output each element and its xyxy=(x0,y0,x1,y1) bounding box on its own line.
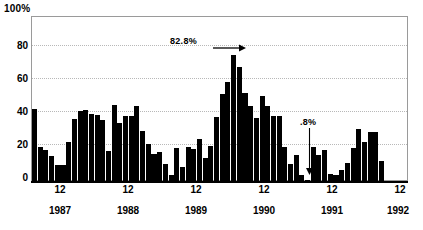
bar xyxy=(151,154,156,181)
x-year-1990: 1990 xyxy=(253,205,275,216)
bar xyxy=(339,170,344,181)
bar xyxy=(38,147,43,181)
bar xyxy=(322,150,327,181)
annotation-peak-label: 82.8% xyxy=(170,36,197,46)
bar xyxy=(163,164,168,181)
x-tick-1991: 12 xyxy=(326,184,337,195)
bar-chart: 100% 80 60 40 20 0 12 12 12 12 12 12 198… xyxy=(0,0,423,230)
bar xyxy=(112,105,117,181)
x-year-1992: 1992 xyxy=(387,205,409,216)
x-axis-baseline xyxy=(31,181,408,183)
bar xyxy=(123,116,128,181)
bar xyxy=(316,155,321,181)
bar xyxy=(248,106,253,181)
x-year-1988: 1988 xyxy=(117,205,139,216)
bar xyxy=(146,144,151,181)
x-tick-1990: 12 xyxy=(258,184,269,195)
x-tick-1992: 12 xyxy=(394,184,405,195)
bar xyxy=(89,114,94,181)
bar xyxy=(49,156,54,181)
bar xyxy=(83,110,88,181)
bar xyxy=(237,67,242,181)
y-tick-label-40: 40 xyxy=(2,106,28,117)
y-tick-label-80: 80 xyxy=(2,40,28,51)
bar xyxy=(231,55,236,181)
bar xyxy=(134,106,139,181)
bar xyxy=(362,142,367,181)
bar xyxy=(100,120,105,182)
x-year-1991: 1991 xyxy=(321,205,343,216)
right-arrow-icon xyxy=(213,44,246,52)
y-tick-label-20: 20 xyxy=(2,139,28,150)
y-tick-label-0: 0 xyxy=(2,172,28,183)
bar xyxy=(379,161,384,181)
bar xyxy=(328,174,333,181)
bar xyxy=(282,147,287,181)
bar xyxy=(345,163,350,181)
bar xyxy=(66,142,71,181)
bar xyxy=(351,148,356,181)
x-tick-1989: 12 xyxy=(190,184,201,195)
bar xyxy=(265,106,270,181)
bar xyxy=(43,150,48,181)
x-year-1989: 1989 xyxy=(185,205,207,216)
x-tick-1987: 12 xyxy=(54,184,65,195)
bar xyxy=(254,118,259,181)
down-arrow-icon xyxy=(305,128,314,175)
bar-series xyxy=(32,17,407,181)
bar xyxy=(220,94,225,181)
x-year-1987: 1987 xyxy=(49,205,71,216)
bar xyxy=(129,116,134,181)
bar xyxy=(55,165,60,181)
bar xyxy=(208,146,213,181)
y-tick-label-60: 60 xyxy=(2,73,28,84)
bar xyxy=(186,147,191,181)
bar xyxy=(203,158,208,181)
bar xyxy=(294,155,299,181)
bar xyxy=(191,149,196,181)
annotation-trough-label: .8% xyxy=(300,117,316,127)
bar xyxy=(95,115,100,181)
bar xyxy=(356,129,361,181)
bar xyxy=(117,123,122,181)
x-tick-1988: 12 xyxy=(122,184,133,195)
bar xyxy=(180,167,185,181)
bar xyxy=(197,139,202,181)
bar xyxy=(368,132,373,181)
bar xyxy=(140,131,145,181)
bar xyxy=(242,93,247,181)
bar xyxy=(174,148,179,181)
bar xyxy=(260,96,265,181)
bar xyxy=(157,152,162,181)
bar xyxy=(214,117,219,181)
bar xyxy=(32,109,37,181)
bar xyxy=(373,132,378,181)
bar xyxy=(72,119,77,181)
bar xyxy=(271,116,276,181)
bar xyxy=(60,165,65,181)
bar xyxy=(225,82,230,181)
bar xyxy=(277,116,282,181)
bar xyxy=(288,164,293,181)
y-axis-top-label: 100% xyxy=(4,3,30,14)
bar xyxy=(78,111,83,181)
bar xyxy=(106,151,111,181)
